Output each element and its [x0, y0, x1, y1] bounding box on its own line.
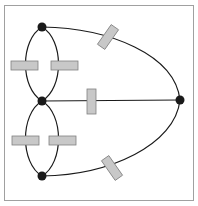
- diagram-frame: [5, 6, 194, 201]
- resistor-upper-left: [11, 61, 38, 70]
- resistor-lower-right: [49, 136, 76, 145]
- resistor-lower-left: [12, 136, 39, 145]
- resistor-middle: [87, 89, 96, 114]
- resistor-upper-right: [51, 61, 78, 70]
- node-bottom: [38, 172, 47, 181]
- node-right: [176, 96, 185, 105]
- circuit-diagram: [0, 0, 198, 206]
- node-middle: [38, 97, 47, 106]
- node-top: [38, 23, 47, 32]
